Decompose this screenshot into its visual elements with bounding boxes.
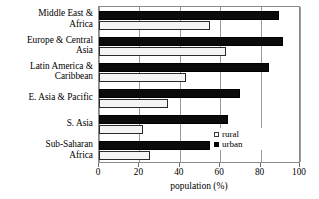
bar-rural (99, 21, 210, 30)
bar-urban (99, 11, 279, 20)
legend-item-rural: rural (214, 129, 270, 139)
legend-swatch-urban-icon (214, 142, 219, 147)
category-label: Sub-Saharan Africa (0, 139, 93, 160)
axis-tick-label: 0 (96, 167, 101, 178)
axis-tick-label: 100 (292, 167, 306, 178)
legend-item-urban: urban (214, 139, 270, 149)
legend-label-urban: urban (222, 139, 243, 149)
legend-swatch-rural-icon (214, 132, 219, 137)
bar-rural (99, 99, 168, 108)
bar-rural (99, 73, 186, 82)
bar-group (99, 33, 299, 59)
bar-group (99, 7, 299, 33)
bar-urban (99, 63, 269, 72)
bar-urban (99, 89, 240, 98)
bar-group (99, 59, 299, 85)
chart-legend: rural urban (212, 128, 272, 150)
bar-group (99, 86, 299, 112)
axis-tick-label: 60 (215, 167, 224, 178)
axis-tick-label: 80 (255, 167, 264, 178)
gridline (300, 7, 301, 162)
bar-chart-figure: Middle East & AfricaEurope & Central Asi… (0, 0, 319, 199)
bar-urban (99, 115, 228, 124)
category-label: Latin America & Caribbean (0, 61, 93, 82)
x-axis-title: population (%) (98, 180, 300, 192)
category-label: E. Asia & Pacific (0, 92, 93, 103)
legend-label-rural: rural (222, 129, 239, 139)
bar-rural (99, 47, 226, 56)
category-axis-labels: Middle East & AfricaEurope & Central Asi… (0, 6, 96, 163)
category-label: Middle East & Africa (0, 8, 93, 29)
x-axis-tick-labels: 020406080100 (98, 167, 300, 179)
axis-tick-label: 40 (174, 167, 183, 178)
bar-urban (99, 141, 210, 150)
bar-urban (99, 37, 283, 46)
bar-rural (99, 125, 143, 134)
bar-rural (99, 151, 150, 160)
axis-tick-label: 20 (134, 167, 143, 178)
category-label: S. Asia (0, 118, 93, 129)
category-label: Europe & Central Asia (0, 35, 93, 56)
